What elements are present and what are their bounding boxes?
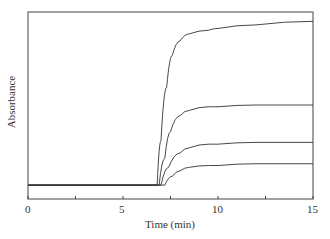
x-axis-label: Time (min) — [145, 218, 195, 230]
x-tick-10: 10 — [212, 203, 223, 215]
x-tick-5: 5 — [119, 203, 125, 215]
plot-area — [0, 0, 330, 239]
y-axis-label: Absorbance — [5, 67, 17, 137]
chart: Absorbance 0 5 10 15 Time (min) — [0, 0, 330, 239]
x-tick-0: 0 — [25, 203, 31, 215]
x-tick-15: 15 — [307, 203, 318, 215]
